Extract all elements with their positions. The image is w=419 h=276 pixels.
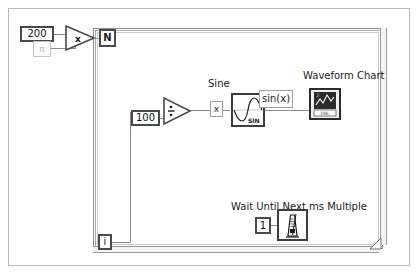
pi-constant[interactable]: π — [33, 41, 51, 57]
block-diagram-canvas: 200 π x N i 100 x Sine SIN sin — [0, 0, 419, 276]
wait-constant[interactable]: 1 — [255, 217, 271, 234]
divisor-constant[interactable]: 100 — [131, 110, 160, 126]
for-loop-right-band — [380, 28, 387, 245]
loop-resize-handle-icon[interactable] — [369, 235, 382, 248]
loop-count-terminal[interactable]: N — [99, 29, 116, 47]
loop-iteration-terminal[interactable]: i — [98, 234, 112, 250]
for-loop-structure[interactable] — [93, 28, 383, 249]
count-constant[interactable]: 200 — [20, 26, 54, 42]
svg-text:DBL: DBL — [320, 111, 330, 116]
svg-text:SIN: SIN — [248, 117, 260, 124]
svg-text:2: 2 — [317, 93, 320, 98]
wait-ms-metronome-icon[interactable] — [277, 209, 308, 241]
divide-operator-icon[interactable] — [160, 96, 194, 126]
for-loop-inner-border — [97, 32, 379, 245]
sine-label: Sine — [208, 79, 230, 89]
x-wire-label: x — [210, 101, 223, 117]
sin-x-wire-label: sin(x) — [259, 90, 293, 108]
waveform-chart-terminal-icon[interactable]: 2 DBL — [309, 88, 341, 120]
svg-text:x: x — [75, 34, 81, 44]
multiply-operator-icon[interactable]: x — [60, 23, 98, 53]
for-loop-bottom-band — [93, 246, 379, 253]
waveform-chart-label: Waveform Chart — [303, 71, 384, 81]
